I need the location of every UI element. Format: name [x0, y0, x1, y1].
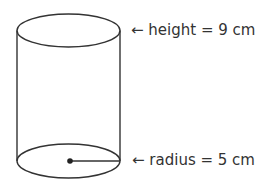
radius-label: ← radius = 5 cm — [132, 153, 255, 168]
cylinder-top-ellipse — [17, 14, 120, 47]
center-dot — [67, 158, 73, 164]
cylinder-diagram: ← height = 9 cm ← radius = 5 cm — [0, 0, 261, 187]
height-label: ← height = 9 cm — [131, 23, 255, 38]
